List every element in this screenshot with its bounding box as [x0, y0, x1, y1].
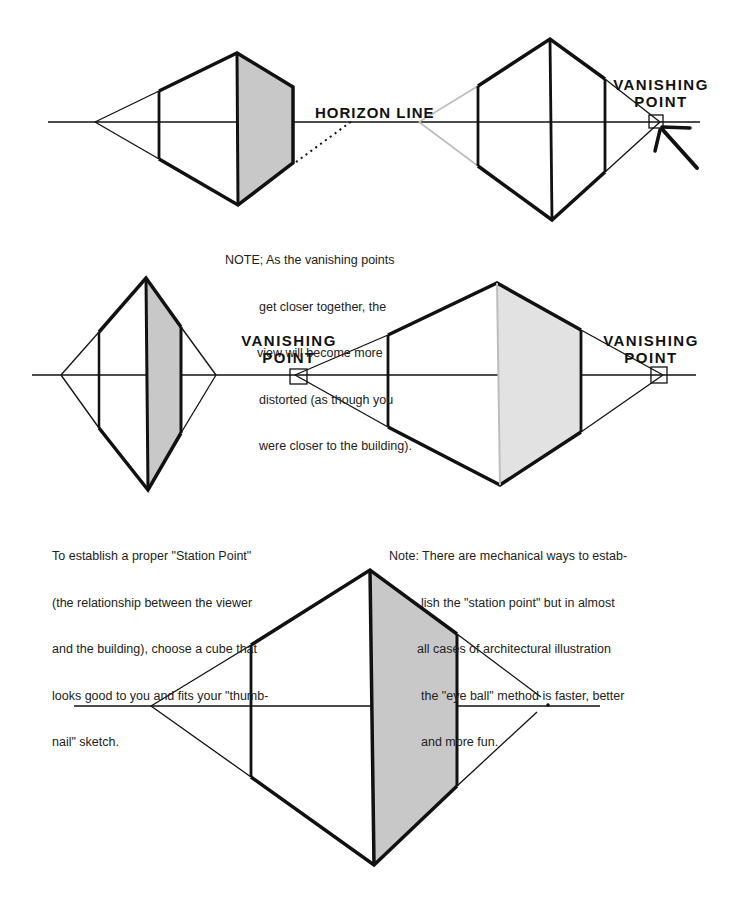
horizon-line-label: HORIZON LINE	[315, 104, 435, 121]
note-line: were closer to the building).	[225, 439, 412, 455]
note-line: lish the "station point" but in almost	[389, 596, 627, 612]
distortion-note: NOTE; As the vanishing points get closer…	[225, 222, 412, 470]
vanishing-point-label-top-right: VANISHING POINT	[605, 76, 717, 110]
hand-pointer-icon	[655, 127, 697, 168]
note-line: To establish a proper "Station Point"	[52, 549, 268, 565]
note-line: distorted (as though you	[225, 393, 412, 409]
note-line: Note: There are mechanical ways to estab…	[389, 549, 627, 565]
station-point-note: To establish a proper "Station Point" (t…	[52, 518, 268, 766]
mechanical-methods-note: Note: There are mechanical ways to estab…	[389, 518, 627, 766]
vanishing-point-label-mid-right: VANISHING POINT	[597, 332, 705, 366]
cube-diagram-top-right	[400, 39, 700, 220]
note-line: and more fun.	[389, 735, 627, 751]
vanishing-label-line: VANISHING	[597, 332, 705, 349]
note-line: the "eye ball" method is faster, better	[389, 689, 627, 705]
note-line: looks good to you and fits your "thumb-	[52, 689, 268, 705]
note-line: get closer together, the	[225, 300, 412, 316]
vanishing-label-line: VANISHING	[605, 76, 717, 93]
note-line: (the relationship between the viewer	[52, 596, 268, 612]
shaded-face	[497, 283, 581, 485]
note-line: and the building), choose a cube that	[52, 642, 268, 658]
point-label-line: POINT	[605, 93, 717, 110]
point-label-line: POINT	[597, 349, 705, 366]
shaded-face	[146, 278, 181, 490]
note-line: all cases of architectural illustration	[389, 642, 627, 658]
dotted-construction-line	[296, 121, 352, 162]
note-line: NOTE; As the vanishing points	[225, 253, 412, 269]
cube-diagram-top-left	[48, 53, 400, 205]
note-line: nail" sketch.	[52, 735, 268, 751]
note-line: view will become more	[225, 346, 412, 362]
